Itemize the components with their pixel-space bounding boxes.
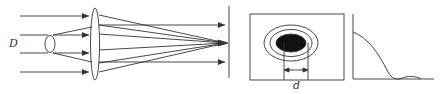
converging-rays — [99, 15, 228, 72]
diffraction-diagram: D d — [0, 0, 441, 94]
converging-lens — [91, 8, 100, 80]
intensity-profile-plot — [353, 14, 434, 79]
aperture-ellipse — [45, 36, 55, 53]
beam-diameter-label: D — [9, 37, 18, 50]
spot-diameter-label: d — [293, 79, 300, 92]
central-spot — [276, 34, 306, 52]
diagram-drawing — [0, 0, 441, 94]
incident-rays — [20, 16, 92, 72]
